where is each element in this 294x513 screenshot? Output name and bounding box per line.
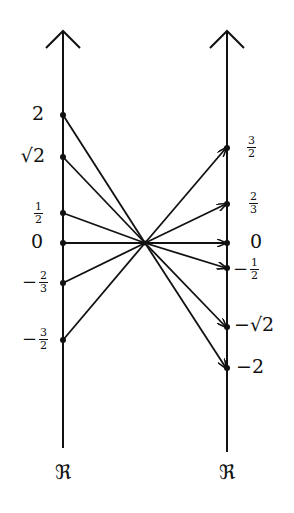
left-axis-label: ℜ (55, 462, 71, 482)
left-label-sqrt2: √2 (21, 146, 45, 165)
left-label-neg-three-halves: −32 (22, 327, 48, 351)
right-label-neg-sqrt2: −√2 (234, 315, 274, 334)
right-label-neg-half: −12 (233, 257, 259, 281)
right-label-zero: 0 (250, 232, 262, 251)
left-to-center-segments (63, 115, 145, 340)
right-label-three-halves: 32 (247, 135, 256, 159)
left-label-half: 12 (34, 201, 43, 225)
left-label-zero: 0 (31, 232, 43, 251)
center-to-right-arrows (145, 148, 226, 368)
right-label-neg-2: −2 (236, 357, 264, 376)
right-label-two-thirds: 23 (249, 191, 258, 215)
left-label-2: 2 (32, 104, 44, 123)
left-label-neg-two-thirds: −23 (22, 270, 48, 294)
right-axis-label: ℜ (219, 462, 235, 482)
center-point (143, 241, 148, 246)
